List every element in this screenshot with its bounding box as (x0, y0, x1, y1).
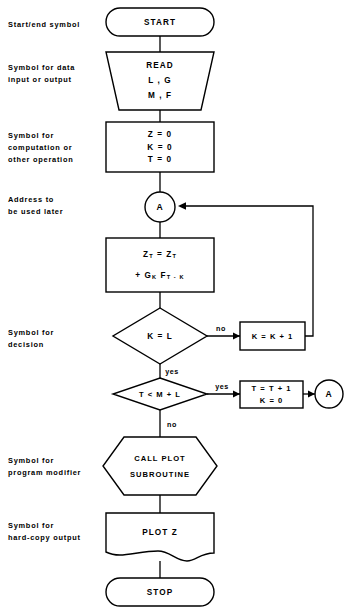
accumulate-process-shape (106, 238, 214, 292)
side-label-process-line3: other operation (8, 155, 73, 164)
accumulate-z2-sub: T (172, 253, 177, 259)
side-label-connector-line1: Address to (8, 195, 54, 204)
call-plot-line1: CALL PLOT (134, 454, 185, 463)
edge-label-t-no: no (167, 420, 177, 429)
side-label-terminal-line1: Start/end symbol (8, 20, 80, 29)
stop-label: STOP (147, 588, 174, 597)
side-label-connector-line2: be used later (8, 207, 63, 216)
side-label-io-line1: Symbol for data (8, 63, 75, 72)
node-increment-k[interactable]: K = K + 1 (240, 322, 305, 350)
side-label-document-line2: hard-copy output (8, 533, 81, 542)
accumulate-f: F (157, 271, 166, 280)
arrow-loop-back (178, 202, 186, 209)
decision-t-label: T < M + L (139, 390, 181, 399)
node-advance-t[interactable]: T = T + 1 K = 0 (240, 381, 303, 408)
side-label-decision: Symbol for decision (8, 328, 54, 349)
start-label: START (144, 18, 176, 27)
init-line1: Z = 0 (148, 130, 172, 139)
side-label-connector: Address to be used later (8, 195, 63, 216)
edge-label-t-yes: yes (215, 382, 229, 391)
read-line3: M , F (148, 91, 172, 100)
node-read[interactable]: READ L , G M , F (106, 52, 214, 110)
advance-t-line2: K = 0 (260, 396, 283, 405)
side-label-io: Symbol for data input or output (8, 63, 75, 84)
increment-k-label: K = K + 1 (252, 332, 294, 341)
node-connector-a-right[interactable]: A (315, 380, 343, 408)
side-label-document-line1: Symbol for (8, 521, 54, 530)
accumulate-line1: ZT = ZT (143, 250, 177, 259)
arrow-decision-k-no (233, 333, 240, 340)
node-plot-z[interactable]: PLOT Z (106, 513, 214, 561)
flowchart-diagram: Start/end symbol Symbol for data input o… (0, 0, 347, 615)
node-call-plot[interactable]: CALL PLOT SUBROUTINE (103, 437, 217, 495)
side-label-decision-line1: Symbol for (8, 328, 54, 337)
side-label-process-line1: Symbol for (8, 131, 54, 140)
decision-k-label: K = L (147, 332, 173, 341)
call-plot-shape (103, 437, 217, 495)
side-label-predefined: Symbol for program modifier (8, 456, 81, 477)
accumulate-plus: + (135, 271, 144, 280)
arrow-advance-to-connector-a (308, 391, 315, 398)
accumulate-op: = (154, 250, 167, 259)
side-label-terminal: Start/end symbol (8, 20, 80, 29)
plot-z-label: PLOT Z (142, 528, 178, 537)
side-label-process-line2: computation or (8, 143, 72, 152)
accumulate-f-sub: T - K (167, 274, 185, 280)
node-stop[interactable]: STOP (106, 578, 214, 606)
side-label-decision-line2: decision (8, 340, 44, 349)
advance-t-line1: T = T + 1 (252, 384, 292, 393)
side-label-predefined-line2: program modifier (8, 468, 81, 477)
side-label-process: Symbol for computation or other operatio… (8, 131, 73, 164)
edge-label-k-yes: yes (165, 367, 179, 376)
node-init[interactable]: Z = 0 K = 0 T = 0 (106, 122, 214, 172)
read-line2: L , G (148, 76, 172, 85)
side-label-predefined-line1: Symbol for (8, 456, 54, 465)
accumulate-g: G (145, 271, 152, 280)
node-accumulate[interactable]: ZT = ZT + GK FT - K (106, 238, 214, 292)
connector-a-right-label: A (325, 389, 332, 399)
node-decision-t[interactable]: T < M + L (113, 378, 207, 410)
edge-label-k-no: no (216, 324, 226, 333)
connector-a-left-label: A (156, 202, 163, 212)
call-plot-line2: SUBROUTINE (130, 470, 190, 479)
node-decision-k[interactable]: K = L (113, 308, 207, 364)
node-connector-a-left[interactable]: A (145, 192, 175, 222)
side-label-document: Symbol for hard-copy output (8, 521, 81, 542)
side-label-io-line2: input or output (8, 75, 72, 84)
read-line1: READ (146, 61, 174, 70)
init-line2: K = 0 (147, 143, 172, 152)
init-line3: T = 0 (148, 155, 172, 164)
node-start[interactable]: START (106, 8, 214, 36)
arrow-decision-t-yes (233, 391, 240, 398)
